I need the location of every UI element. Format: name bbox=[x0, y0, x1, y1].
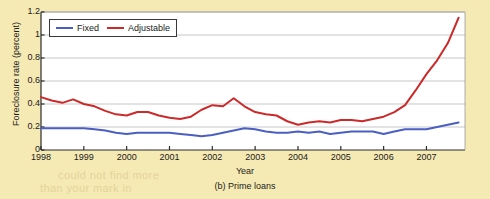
y-axis-title: Foreclosure rate (percent) bbox=[11, 9, 21, 139]
legend-label: Adjustable bbox=[128, 24, 170, 33]
x-tick-label: 2005 bbox=[331, 152, 351, 162]
legend-entry-adjustable: Adjustable bbox=[107, 24, 170, 33]
legend-label: Fixed bbox=[77, 24, 99, 33]
legend-swatch-fixed bbox=[56, 27, 73, 29]
x-tick-label: 1999 bbox=[74, 152, 94, 162]
x-tick-label: 2004 bbox=[288, 152, 308, 162]
x-tick-label: 2000 bbox=[117, 152, 137, 162]
x-tick-label: 2007 bbox=[416, 152, 436, 162]
legend-swatch-adjustable bbox=[107, 27, 124, 29]
legend-entry-fixed: Fixed bbox=[56, 24, 99, 33]
x-tick-label: 1998 bbox=[31, 152, 51, 162]
x-tick-label: 2001 bbox=[159, 152, 179, 162]
x-tick-label: 2006 bbox=[374, 152, 394, 162]
bleed-text-line-1: could not find more bbox=[58, 169, 159, 181]
chart-legend: FixedAdjustable bbox=[49, 19, 177, 37]
figure-prime-loans: the marks the same of more 1.210.80.60.4… bbox=[0, 0, 490, 199]
bleed-text-line-2: than your mark in bbox=[40, 182, 132, 194]
x-tick-label: 2002 bbox=[202, 152, 222, 162]
x-tick-label: 2003 bbox=[245, 152, 265, 162]
x-axis-tick-labels: 1998199920002001200220032004200520062007 bbox=[0, 152, 490, 166]
